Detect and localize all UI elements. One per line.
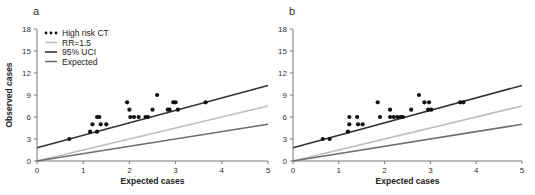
data-point	[392, 115, 396, 119]
y-tick-label: 15	[278, 47, 287, 56]
data-point	[346, 130, 350, 134]
data-point	[429, 108, 433, 112]
y-tick-label: 0	[27, 157, 32, 166]
y-tick-label: 9	[283, 91, 288, 100]
x-tick-label: 4	[220, 166, 225, 175]
x-tick-label: 3	[173, 166, 178, 175]
y-tick-label: 9	[27, 91, 32, 100]
data-point	[155, 93, 159, 97]
data-point	[361, 122, 365, 126]
y-tick-label: 6	[283, 113, 288, 122]
y-tick-label: 12	[22, 69, 31, 78]
x-axis-title: Expected cases	[376, 176, 440, 186]
legend-label: High risk CT	[62, 28, 109, 38]
data-point	[427, 100, 431, 104]
x-tick-label: 3	[428, 166, 433, 175]
panel-b: b0369121518012345Expected cases	[278, 5, 525, 186]
data-point	[174, 100, 178, 104]
y-axis-title: Observed cases	[4, 62, 14, 127]
data-point	[104, 122, 108, 126]
y-tick-label: 3	[27, 135, 32, 144]
data-point	[347, 122, 351, 126]
data-point	[422, 100, 426, 104]
data-point	[90, 122, 94, 126]
data-point	[376, 100, 380, 104]
data-point	[388, 108, 392, 112]
line-95-uci	[293, 85, 522, 147]
data-point	[347, 115, 351, 119]
data-point	[146, 115, 150, 119]
legend-label: RR=1.5	[62, 38, 91, 48]
legend-marker-icon	[45, 32, 48, 35]
y-tick-label: 18	[22, 25, 31, 34]
x-tick-label: 5	[266, 166, 271, 175]
data-point	[127, 108, 131, 112]
data-point	[88, 130, 92, 134]
data-point	[355, 115, 359, 119]
data-point	[328, 137, 332, 141]
x-tick-label: 2	[382, 166, 387, 175]
y-tick-label: 6	[27, 113, 32, 122]
data-point	[150, 108, 154, 112]
data-point	[97, 115, 101, 119]
panel-a: a0369121518012345Expected casesObserved …	[4, 5, 271, 186]
x-axis-title: Expected cases	[121, 176, 185, 186]
line-expected	[293, 124, 522, 161]
y-tick-label: 0	[283, 157, 288, 166]
x-tick-label: 0	[291, 166, 296, 175]
line-95-uci	[37, 85, 268, 147]
data-point	[128, 115, 132, 119]
x-tick-label: 4	[474, 166, 479, 175]
data-point	[95, 130, 99, 134]
legend: High risk CTRR=1.595% UCIExpected	[45, 28, 109, 67]
data-point	[167, 108, 171, 112]
panel-label: a	[33, 5, 40, 17]
x-tick-label: 5	[520, 166, 525, 175]
line-rr-1-5	[293, 106, 522, 161]
panel-label: b	[289, 5, 295, 17]
data-point	[67, 137, 71, 141]
data-point	[388, 115, 392, 119]
x-tick-label: 0	[35, 166, 40, 175]
data-point	[132, 115, 136, 119]
data-point	[321, 137, 325, 141]
y-tick-label: 12	[278, 69, 287, 78]
data-point	[137, 115, 141, 119]
y-tick-label: 15	[22, 47, 31, 56]
data-point	[401, 115, 405, 119]
data-point	[176, 108, 180, 112]
legend-label: 95% UCI	[62, 47, 96, 57]
x-tick-label: 1	[81, 166, 86, 175]
y-tick-label: 3	[283, 135, 288, 144]
y-tick-label: 18	[278, 25, 287, 34]
legend-marker-icon	[55, 32, 58, 35]
x-tick-label: 2	[127, 166, 132, 175]
data-point	[99, 122, 103, 126]
data-point	[356, 122, 360, 126]
data-point	[378, 115, 382, 119]
data-point	[409, 108, 413, 112]
data-point	[417, 93, 421, 97]
line-rr-1-5	[37, 106, 268, 161]
data-point	[125, 100, 129, 104]
x-tick-label: 1	[337, 166, 342, 175]
legend-label: Expected	[62, 57, 98, 67]
data-point	[204, 100, 208, 104]
data-point	[461, 100, 465, 104]
line-expected	[37, 124, 268, 161]
figure: a0369121518012345Expected casesObserved …	[0, 0, 535, 195]
legend-marker-icon	[50, 32, 53, 35]
